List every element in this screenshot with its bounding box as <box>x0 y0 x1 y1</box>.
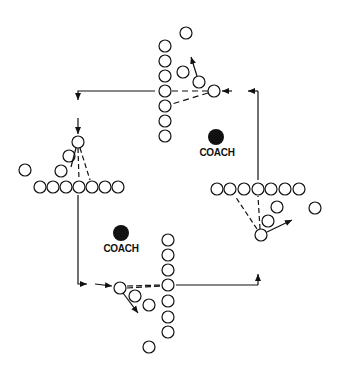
station-right <box>211 183 321 241</box>
coach-label-top: COACH <box>199 147 234 158</box>
drill-diagram: COACH COACH <box>0 0 338 375</box>
station-left <box>19 118 124 193</box>
coach-marker-bottom <box>113 225 129 241</box>
diagram-canvas <box>0 0 338 375</box>
station-top <box>159 27 232 142</box>
coach-marker-top <box>208 129 224 145</box>
rotation-path <box>78 91 258 285</box>
coach-label-bottom: COACH <box>103 243 138 254</box>
